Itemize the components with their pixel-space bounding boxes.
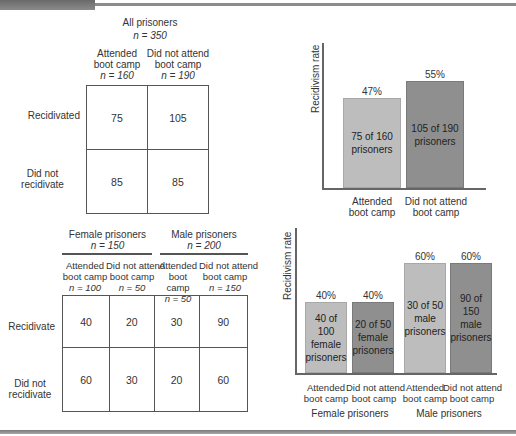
col-label: Did not attend xyxy=(106,260,158,271)
bar-text: prisoners xyxy=(305,351,346,364)
row-label: Did not xyxy=(10,168,75,179)
bar-value-label: 60% xyxy=(450,251,492,262)
male-group-rule xyxy=(160,253,248,255)
table-cell: 30 xyxy=(154,296,199,348)
bar-did-not-attend: 105 of 190 prisoners xyxy=(406,81,464,188)
bar-text: 20 of 50 xyxy=(352,318,393,331)
bar-value-label: 55% xyxy=(406,69,464,80)
col-label: boot camp xyxy=(60,271,110,282)
bar-text: male xyxy=(450,318,491,331)
tick-text: Did not attend xyxy=(443,382,501,393)
bar-text: prisoners xyxy=(411,135,458,148)
tick-text: Attended xyxy=(299,382,353,393)
top-group-title: All prisoners xyxy=(90,17,210,28)
x-tick-label: Did not attend boot camp xyxy=(443,382,501,404)
table-cell: 40 xyxy=(63,296,110,348)
bar-text: prisoners xyxy=(351,143,393,156)
top-row-label-1: Recidivated xyxy=(0,110,80,121)
bar-text: 90 of 150 xyxy=(450,292,491,318)
col-label: Did not attend xyxy=(199,260,251,271)
table-cell: 30 xyxy=(110,348,154,412)
top-contingency-table: 75 105 85 85 xyxy=(86,85,209,214)
bar-text: prisoners xyxy=(450,331,491,344)
bottom-col-header-4: Did not attend boot camp n = 150 xyxy=(199,260,251,293)
y-axis-label: Recidivism rate xyxy=(310,45,321,113)
col-label: Did not attend xyxy=(138,48,218,59)
x-tick-label: Attended boot camp xyxy=(299,382,353,404)
table-cell: 75 xyxy=(87,86,148,150)
row-label: recidivate xyxy=(5,389,55,400)
bar-text: female xyxy=(352,331,393,344)
tick-text: boot camp xyxy=(397,207,475,218)
col-label: boot camp xyxy=(106,271,158,282)
bar-female-attended: 40 of 100 female prisoners xyxy=(305,302,347,373)
bar-male-attended: 30 of 50 male prisoners xyxy=(404,263,446,373)
row-label: recidivate xyxy=(10,179,75,190)
male-group-title: Male prisoners n = 200 xyxy=(160,229,248,251)
header-tab xyxy=(0,0,95,10)
y-axis xyxy=(295,228,297,374)
bottom-row-label-2: Did not recidivate xyxy=(5,378,55,400)
table-cell: 105 xyxy=(147,86,208,150)
top-rule xyxy=(95,3,516,6)
bar-text: 30 of 50 xyxy=(404,299,445,312)
female-group-rule xyxy=(62,253,152,255)
bar-female-did-not-attend: 20 of 50 female prisoners xyxy=(352,302,394,373)
col-n: n = 150 xyxy=(199,282,251,293)
col-label: Attended xyxy=(156,260,200,271)
tick-text: boot camp xyxy=(299,393,353,404)
tick-text: boot camp xyxy=(443,393,501,404)
bar-text: prisoners xyxy=(404,325,445,338)
col-n: n = 190 xyxy=(138,70,218,81)
group-label-female: Female prisoners xyxy=(305,408,395,419)
group-label-male: Male prisoners xyxy=(402,408,496,419)
group-title: Male prisoners xyxy=(160,229,248,240)
tick-text: Did not attend xyxy=(397,196,475,207)
female-group-title: Female prisoners n = 150 xyxy=(60,229,155,251)
table-cell: 85 xyxy=(87,150,148,214)
bottom-col-header-1: Attended boot camp n = 100 xyxy=(60,260,110,293)
row-label: Did not xyxy=(5,378,55,389)
table-cell: 90 xyxy=(199,296,247,348)
top-row-label-2: Did not recidivate xyxy=(10,168,75,190)
y-axis-label: Recidivism rate xyxy=(282,232,293,300)
col-label: boot camp xyxy=(138,59,218,70)
table-cell: 60 xyxy=(63,348,110,412)
bar-text: male xyxy=(404,312,445,325)
bottom-rule xyxy=(0,430,516,434)
y-axis xyxy=(322,43,324,189)
x-axis xyxy=(322,188,486,190)
bar-text: female xyxy=(305,338,346,351)
col-label: boot camp xyxy=(156,271,200,293)
x-tick-label: Did not attend boot camp xyxy=(397,196,475,218)
bar-text: 40 of 100 xyxy=(305,312,346,338)
col-n: n = 50 xyxy=(106,282,158,293)
col-label: Attended xyxy=(60,260,110,271)
bottom-col-header-2: Did not attend boot camp n = 50 xyxy=(106,260,158,293)
bar-value-label: 47% xyxy=(343,86,401,97)
bar-value-label: 60% xyxy=(404,251,446,262)
table-cell: 85 xyxy=(147,150,208,214)
table-cell: 60 xyxy=(199,348,247,412)
group-n: n = 200 xyxy=(160,240,248,251)
bar-text: 75 of 160 xyxy=(351,130,393,143)
col-label: boot camp xyxy=(199,271,251,282)
table-cell: 20 xyxy=(110,296,154,348)
bar-value-label: 40% xyxy=(305,290,347,301)
x-axis xyxy=(295,373,497,375)
group-n: n = 150 xyxy=(60,240,155,251)
bar-text: 105 of 190 xyxy=(411,122,458,135)
bar-text: prisoners xyxy=(352,344,393,357)
col-n: n = 100 xyxy=(60,282,110,293)
bar-male-did-not-attend: 90 of 150 male prisoners xyxy=(450,263,492,373)
table-cell: 20 xyxy=(154,348,199,412)
tick-text: Did not attend xyxy=(346,382,402,393)
group-title: Female prisoners xyxy=(60,229,155,240)
bar-value-label: 40% xyxy=(352,290,394,301)
x-tick-label: Did not attend boot camp xyxy=(346,382,402,404)
bottom-row-label-1: Recidivate xyxy=(0,321,55,332)
bottom-contingency-table: 40 20 30 90 60 30 20 60 xyxy=(62,295,248,412)
bar-attended: 75 of 160 prisoners xyxy=(343,98,401,188)
top-group-n: n = 350 xyxy=(90,30,210,41)
tick-text: boot camp xyxy=(346,393,402,404)
